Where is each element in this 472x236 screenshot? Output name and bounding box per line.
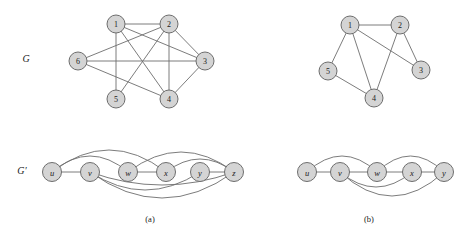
panel-a-Gprime-node-label-y: y (197, 168, 202, 178)
panel-a-G-node-3: 3 (196, 52, 214, 70)
panel-b-G-node-4: 4 (365, 89, 383, 107)
panel-a-G-node-label-5: 5 (114, 95, 118, 104)
panel-a-G-node-label-6: 6 (76, 57, 80, 66)
panel-a-G-node-6: 6 (69, 52, 87, 70)
sub-caption-b: (b) (364, 214, 374, 224)
panel-a-Gprime-node-label-w: w (125, 168, 131, 178)
panel-a-Gprime-node-v: v (81, 163, 100, 182)
panel-b-Gprime-node-x: x (403, 163, 422, 182)
panel-a-Gprime-node-u: u (43, 163, 62, 182)
panel-b-Gprime-node-label-x: x (409, 168, 414, 178)
panel-a-Gprime-node-label-x: x (163, 168, 168, 178)
panel-a-Gprime-arc-v-y-4 (90, 172, 200, 190)
panel-a-Gprime-node-label-u: u (50, 168, 54, 178)
panel-b-G-node-label-1: 1 (348, 21, 352, 30)
panel-b-Gprime-node-label-y: y (441, 168, 446, 178)
panel-a-G-node-4: 4 (160, 90, 178, 108)
panel-a-Gprime-node-label-v: v (88, 168, 92, 178)
panel-b-Gprime-node-y: y (435, 163, 454, 182)
panel-a-Gprime-node-y: y (191, 163, 210, 182)
sub-caption-a: (a) (145, 214, 155, 224)
panel-b-G-node-label-2: 2 (398, 21, 402, 30)
panel-b-G-node-3: 3 (412, 61, 430, 79)
panel-b-Gprime-node-v: v (331, 163, 350, 182)
panel-b-G-node-label-5: 5 (326, 67, 330, 76)
panel-b-G-node-label-4: 4 (372, 94, 376, 103)
panel-a-Gprime-node-label-z: z (231, 168, 236, 178)
panel-a-G-node-label-4: 4 (167, 95, 171, 104)
panel-b-Gprime-node-label-u: u (305, 168, 309, 178)
panel-a-G-node-5: 5 (107, 90, 125, 108)
panel-a-G-node-1: 1 (107, 15, 125, 33)
panel-a-Gprime-arc-u-x-1 (52, 150, 166, 172)
row-label-G-prime: G′ (17, 165, 27, 176)
labels-layer: GG′(a)(b) (17, 53, 374, 225)
panel-b-Gprime-node-u: u (298, 163, 317, 182)
panel-a-G-node-2: 2 (160, 15, 178, 33)
row-label-G: G (22, 53, 29, 64)
panel-b-G-edge-2-4 (374, 25, 400, 98)
panel-a-Gprime-node-z: z (225, 163, 244, 182)
panel-a-G-node-label-1: 1 (114, 20, 118, 29)
panel-b-G-edge-1-4 (350, 25, 374, 98)
panel-a-Gprime-node-x: x (157, 163, 176, 182)
nodes-layer: 123456uvwxyz12345uvwxy (43, 15, 454, 182)
panel-b-Gprime-node-label-v: v (338, 168, 342, 178)
panel-b-G-node-1: 1 (341, 16, 359, 34)
panel-b-G-node-5: 5 (319, 62, 337, 80)
panel-a-G-node-label-3: 3 (203, 57, 207, 66)
panel-b-G-node-2: 2 (391, 16, 409, 34)
panel-b-Gprime-node-w: w (368, 163, 387, 182)
panel-b-G-node-label-3: 3 (419, 66, 423, 75)
panel-a-Gprime-node-w: w (119, 163, 138, 182)
panel-a-G-node-label-2: 2 (167, 20, 171, 29)
panel-b-Gprime-node-label-w: w (374, 168, 380, 178)
panel-a-Gprime-arc-w-z-2 (128, 152, 234, 172)
figure-graph-isomorphism: 123456uvwxyz12345uvwxy GG′(a)(b) (0, 0, 472, 236)
